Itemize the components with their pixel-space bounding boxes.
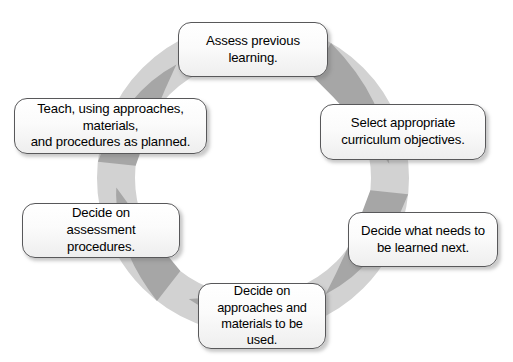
cycle-node-teach-as-planned: Teach, using approaches, materials,and p… [14, 98, 207, 154]
cycle-node-decide-assessment-procedures: Decide onassessment procedures. [22, 203, 180, 258]
cycle-node-assess-previous-learning: Assess previouslearning. [178, 22, 328, 77]
cycle-node-label: Decide onapproaches andmaterials to be u… [207, 283, 317, 349]
cycle-node-label: Decide what needs tobe learned next. [357, 223, 489, 257]
instructional-planning-cycle-diagram: Assess previouslearning. Select appropri… [0, 0, 513, 362]
cycle-node-select-curriculum-objectives: Select appropriatecurriculum objectives. [320, 104, 486, 160]
cycle-node-label: Assess previouslearning. [187, 33, 319, 67]
cycle-node-decide-approaches-materials: Decide onapproaches andmaterials to be u… [198, 283, 326, 349]
cycle-node-label: Decide onassessment procedures. [31, 205, 171, 256]
cycle-node-label: Select appropriatecurriculum objectives. [329, 115, 477, 149]
cycle-node-decide-what-needs-learned: Decide what needs tobe learned next. [348, 212, 498, 267]
cycle-node-label: Teach, using approaches, materials,and p… [23, 101, 198, 152]
